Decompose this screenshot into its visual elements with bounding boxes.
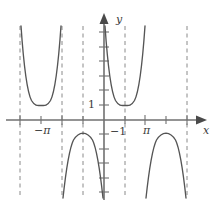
figure-canvas: y x −π π 1 −1 bbox=[0, 0, 217, 200]
x-axis-label: x bbox=[203, 125, 209, 136]
x-tick-label-pi: π bbox=[143, 125, 150, 136]
y-tick-label-neg-one: −1 bbox=[110, 126, 126, 137]
x-tick-label-neg-pi: −π bbox=[34, 125, 50, 136]
secant-function-plot bbox=[0, 0, 217, 200]
plot-background bbox=[0, 0, 217, 200]
y-axis-label: y bbox=[116, 14, 122, 25]
y-tick-label-one: 1 bbox=[88, 99, 95, 110]
